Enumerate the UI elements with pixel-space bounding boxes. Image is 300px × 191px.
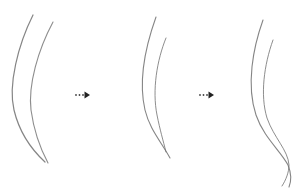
stage-3-inner-strand: [263, 40, 289, 186]
arrow-2: [199, 92, 214, 99]
arrow-1-dot-2: [79, 94, 81, 96]
arrow-2-head-icon: [209, 92, 215, 99]
arrow-2-dot-3: [206, 94, 208, 96]
stage-1-panel: [12, 15, 53, 163]
stage-1-outer-strand: [12, 15, 45, 162]
arrow-1-head-icon: [85, 92, 91, 99]
stage-1-inner-strand: [30, 22, 53, 163]
arrow-1: [75, 92, 90, 99]
arrow-1-dot-1: [75, 94, 77, 96]
stage-3-panel: [251, 20, 291, 187]
stage-2-inner-strand: [155, 38, 166, 152]
stage-2-panel: [142, 17, 170, 158]
arrow-1-dot-3: [82, 94, 84, 96]
arrow-2-dot-1: [199, 94, 201, 96]
diagram-canvas: [0, 0, 300, 191]
arrow-2-dot-2: [203, 94, 205, 96]
